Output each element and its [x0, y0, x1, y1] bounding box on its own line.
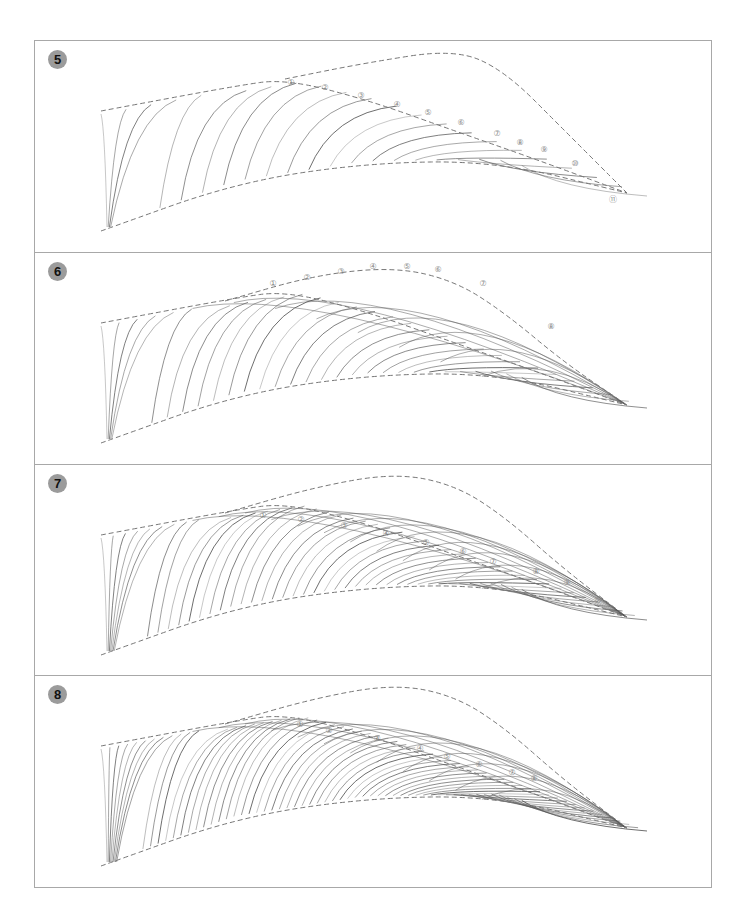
stroke-order-label: ③	[373, 734, 380, 743]
hair-stroke	[352, 336, 447, 375]
hair-stroke	[302, 738, 388, 805]
hair-stroke	[251, 512, 328, 602]
hair-stroke	[108, 323, 119, 439]
hair-stroke	[321, 323, 411, 379]
stroke-order-label: ⑪	[609, 195, 617, 204]
hair-stroke	[275, 307, 357, 387]
stroke-order-label: ⑦	[508, 768, 515, 777]
hair-stroke	[351, 124, 446, 163]
outer-hair-stroke	[350, 525, 625, 616]
hair-stroke	[229, 294, 303, 395]
figure-frame: 5 ①②③④⑤⑥⑦⑧⑨⑩⑪ 6 ①②③④⑤⑥⑦⑧ 7 ①②③④⑤⑥⑦⑧⑨⑩ 8 …	[34, 40, 712, 888]
outer-hair-stroke	[316, 307, 625, 404]
hair-stroke	[158, 520, 199, 633]
hair-stroke	[224, 83, 297, 185]
outer-hair-stroke	[234, 298, 625, 404]
hair-stroke	[345, 545, 439, 588]
hair-stroke	[337, 330, 430, 378]
hair-stroke	[108, 109, 126, 227]
hair-stroke	[202, 87, 271, 193]
hair-stroke	[291, 311, 375, 384]
hair-stroke	[437, 158, 547, 160]
hair-stroke	[231, 506, 305, 606]
outer-hair-stroke	[271, 511, 625, 616]
eyebrow-stroke-diagram: ①②③④⑤⑥⑦⑧⑨⑩⑪	[35, 41, 711, 252]
hair-stroke	[288, 99, 372, 173]
stroke-order-label: ③	[340, 521, 347, 530]
outer-hair-stroke	[358, 318, 625, 404]
hair-stroke	[272, 518, 353, 599]
stroke-order-label: ④	[382, 529, 389, 538]
hair-stroke	[160, 95, 201, 208]
outer-hair-stroke	[377, 532, 625, 616]
stroke-order-label: ⑩	[571, 159, 578, 168]
hair-stroke	[314, 532, 403, 593]
stroke-order-label: ①	[296, 720, 303, 729]
hair-stroke	[522, 377, 647, 408]
hair-stroke	[376, 558, 476, 585]
outer-hair-stroke	[377, 743, 625, 827]
stroke-order-label: ⑥	[459, 547, 466, 556]
hair-stroke	[101, 114, 107, 227]
hair-stroke	[198, 299, 266, 406]
stroke-order-label: ⑤	[403, 262, 410, 271]
stroke-order-label: ②	[321, 83, 328, 92]
step-panel-5: 5 ①②③④⑤⑥⑦⑧⑨⑩⑪	[35, 41, 711, 252]
hair-stroke	[245, 86, 321, 179]
stroke-order-label: ⑤	[422, 538, 429, 547]
eyebrow-stroke-diagram: ①②③④⑤⑥⑦⑧	[35, 253, 711, 465]
stroke-order-label: ⑤	[443, 752, 450, 761]
stroke-order-label: ⑥	[457, 118, 464, 127]
hair-stroke	[152, 309, 192, 423]
lower-guide-line	[101, 162, 627, 231]
hair-stroke	[348, 757, 442, 798]
stroke-order-label: ②	[297, 515, 304, 524]
hair-stroke	[325, 748, 415, 802]
stroke-order-label: ④	[393, 100, 400, 109]
stroke-order-label: ⑤	[424, 108, 431, 117]
hair-stroke	[113, 741, 146, 862]
hair-stroke	[355, 760, 451, 797]
stroke-order-label: ⑦	[489, 557, 496, 566]
hair-stroke	[262, 515, 341, 601]
stroke-order-label: ⑨	[540, 145, 547, 154]
stroke-order-label: ⑥	[434, 265, 441, 274]
hair-stroke	[109, 746, 118, 862]
lower-guide-line	[101, 586, 627, 655]
stroke-order-label: ⑦	[493, 129, 500, 138]
hair-stroke	[111, 531, 138, 651]
hair-stroke	[109, 105, 151, 227]
stroke-order-label: ④	[416, 744, 423, 753]
hair-stroke	[293, 524, 378, 596]
stroke-order-label: ⑧	[530, 774, 537, 783]
stroke-order-label: ⑨	[563, 578, 570, 587]
step-panel-8: 8 ①②③④⑤⑥⑦⑧	[35, 675, 711, 889]
hair-stroke	[183, 302, 248, 411]
hair-stroke	[111, 100, 177, 227]
stroke-order-label: ①	[259, 511, 266, 520]
stroke-order-label: ②	[325, 726, 332, 735]
upper-guide-line	[101, 506, 627, 617]
step-panel-6: 6 ①②③④⑤⑥⑦⑧	[35, 252, 711, 464]
eyebrow-stroke-diagram: ①②③④⑤⑥⑦⑧⑨⑩	[35, 465, 711, 676]
hair-stroke	[181, 726, 246, 836]
outer-guide-line	[285, 53, 627, 193]
step-panel-7: 7 ①②③④⑤⑥⑦⑧⑨⑩	[35, 464, 711, 675]
hair-stroke	[220, 508, 292, 610]
hair-stroke	[317, 745, 406, 804]
stroke-order-label: ③	[357, 91, 364, 100]
outer-hair-stroke	[324, 729, 625, 827]
hair-stroke	[181, 91, 246, 201]
hair-stroke	[189, 513, 255, 622]
hair-stroke	[260, 302, 339, 389]
hair-stroke	[112, 529, 150, 651]
stroke-order-label: ①	[287, 78, 294, 87]
stroke-order-label: ⑥	[475, 760, 482, 769]
hair-stroke	[101, 538, 107, 651]
hair-stroke	[147, 522, 186, 636]
eyebrow-stroke-diagram: ①②③④⑤⑥⑦⑧	[35, 676, 711, 890]
hair-stroke	[266, 92, 346, 176]
hair-stroke	[387, 563, 488, 585]
outer-hair-stroke	[440, 349, 625, 404]
stroke-order-label: ⑧	[516, 138, 523, 147]
